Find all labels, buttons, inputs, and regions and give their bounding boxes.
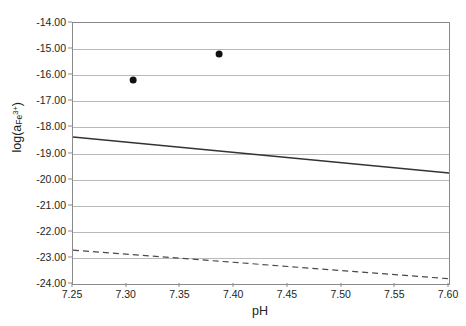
x-axis-tickmark	[72, 283, 73, 287]
dashed-trend-line	[73, 250, 449, 279]
x-axis-tickmark	[125, 283, 126, 287]
x-axis-tickmark	[233, 283, 234, 287]
x-axis-title: pH	[72, 304, 448, 318]
x-axis-tickmark	[448, 283, 449, 287]
x-axis-tick-label: 7.55	[384, 288, 404, 300]
x-axis-tickmark	[286, 283, 287, 287]
y-axis-tick-label: -15.00	[0, 42, 66, 54]
x-axis-tickmark	[340, 283, 341, 287]
x-axis-tick-label: 7.45	[277, 288, 297, 300]
y-axis-tick-label: -22.00	[0, 225, 66, 237]
x-axis-tick-labels: 7.257.307.357.407.457.507.557.60	[72, 288, 448, 304]
data-point-marker	[216, 51, 223, 58]
x-axis-tick-label: 7.30	[115, 288, 135, 300]
x-axis-tick-label: 7.60	[438, 288, 458, 300]
series-layer	[73, 23, 449, 284]
data-point-marker	[130, 76, 137, 83]
y-axis-tick-label: -21.00	[0, 199, 66, 211]
solid-trend-line	[73, 137, 449, 173]
x-axis-tickmark	[394, 283, 395, 287]
y-axis-tick-label: -23.00	[0, 251, 66, 263]
y-axis-title: log(aFe3+)	[10, 72, 25, 182]
x-axis-tick-label: 7.40	[223, 288, 243, 300]
y-axis-tick-label: -14.00	[0, 16, 66, 28]
x-axis-tick-label: 7.35	[169, 288, 189, 300]
x-axis-tick-label: 7.25	[62, 288, 82, 300]
y-axis-title-superscript: 3+	[11, 106, 20, 115]
chart-figure: -14.00-15.00-16.00-17.00-18.00-19.00-20.…	[0, 0, 466, 326]
y-axis-title-subscript: Fe	[14, 115, 24, 125]
x-axis-tickmark	[179, 283, 180, 287]
plot-area	[72, 22, 450, 285]
x-axis-tick-label: 7.50	[330, 288, 350, 300]
y-axis-tick-label: -24.00	[0, 277, 66, 289]
y-axis-title-main: log(a	[10, 125, 24, 153]
y-axis-title-close: )	[10, 102, 24, 106]
